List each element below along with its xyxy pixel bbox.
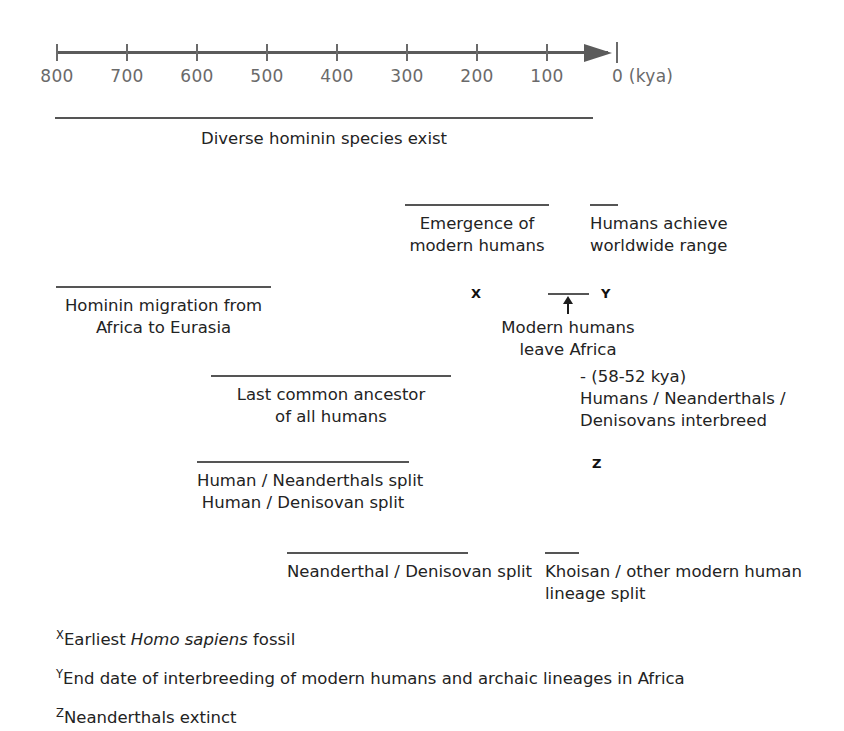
event-neanderthal-denisovan-split: Neanderthal / Denisovan split <box>287 552 468 583</box>
event-hominin-migration: Hominin migration from Africa to Eurasia <box>56 286 271 339</box>
event-label-splits-line2: Human / Denisovan split <box>197 492 409 514</box>
footnote-x-post: fossil <box>248 630 296 649</box>
event-label-khoisan-line2: lineage split <box>545 583 579 605</box>
event-label-migration-line2: Africa to Eurasia <box>56 317 271 339</box>
axis-label-500: 500 <box>250 66 283 86</box>
axis-tick-0 <box>616 42 618 63</box>
axis-tick-600 <box>196 44 198 61</box>
axis-label-0-kya: 0 (kya) <box>612 66 673 86</box>
axis-tick-400 <box>336 44 338 61</box>
event-label-neanderthal-denisovan: Neanderthal / Denisovan split <box>287 554 468 583</box>
axis-label-200: 200 <box>460 66 493 86</box>
footnote-x: XEarliest Homo sapiens fossil <box>56 629 295 651</box>
marker-y: Y <box>601 286 611 301</box>
axis-tick-200 <box>476 44 478 61</box>
timeline-axis: 800 700 600 500 400 300 200 100 0 (kya) <box>0 0 844 100</box>
footnote-z-text: Neanderthals extinct <box>64 708 237 727</box>
footnote-x-pre: Earliest <box>64 630 131 649</box>
axis-label-400: 400 <box>320 66 353 86</box>
axis-tick-800 <box>56 44 58 61</box>
annotation-interbreed-line2: Humans / Neanderthals / <box>580 388 786 410</box>
axis-tick-500 <box>266 44 268 61</box>
marker-z: Z <box>592 456 602 471</box>
event-label-migration-line1: Hominin migration from <box>56 288 271 317</box>
axis-tick-700 <box>126 44 128 61</box>
event-diverse-hominins: Diverse hominin species exist <box>55 117 593 150</box>
annotation-interbreed-line3: Denisovans interbreed <box>580 410 767 432</box>
footnote-y-marker: Y <box>56 667 63 681</box>
up-arrow-icon <box>563 296 573 304</box>
axis-label-700: 700 <box>110 66 143 86</box>
event-khoisan-split: Khoisan / other modern human lineage spl… <box>545 552 579 605</box>
event-label-khoisan-line1: Khoisan / other modern human <box>545 554 579 583</box>
event-last-common-ancestor: Last common ancestor of all humans <box>211 375 451 428</box>
event-emergence-modern-humans: Emergence of modern humans <box>405 204 549 257</box>
annotation-leave-africa-line2: leave Africa <box>519 339 616 361</box>
event-label-worldwide-line1: Humans achieve <box>590 206 618 235</box>
footnote-z-marker: Z <box>56 706 64 720</box>
footnote-z: ZNeanderthals extinct <box>56 707 237 729</box>
axis-tick-300 <box>406 44 408 61</box>
axis-tick-100 <box>546 44 548 61</box>
axis-line <box>56 51 608 54</box>
event-label-emergence-line1: Emergence of <box>405 206 549 235</box>
event-label-emergence-line2: modern humans <box>405 235 549 257</box>
axis-arrow-icon <box>584 44 612 62</box>
footnote-x-italic: Homo sapiens <box>131 630 248 649</box>
event-label-worldwide-line2: worldwide range <box>590 235 618 257</box>
axis-label-100: 100 <box>530 66 563 86</box>
timeline-diagram: 800 700 600 500 400 300 200 100 0 (kya) … <box>0 0 844 731</box>
axis-label-800: 800 <box>40 66 73 86</box>
event-humans-worldwide-range: Humans achieve worldwide range <box>590 204 618 257</box>
annotation-interbreed-line1: - (58-52 kya) <box>580 366 686 388</box>
event-label-lca-line1: Last common ancestor <box>211 377 451 406</box>
event-rule-leave-africa <box>548 293 589 295</box>
axis-label-600: 600 <box>180 66 213 86</box>
event-label-splits-line1: Human / Neanderthals split <box>197 463 409 492</box>
event-human-neanderthal-denisovan-split: Human / Neanderthals split Human / Denis… <box>197 461 409 514</box>
footnote-x-marker: X <box>56 628 64 642</box>
annotation-leave-africa-line1: Modern humans <box>501 317 634 339</box>
footnote-y: YEnd date of interbreeding of modern hum… <box>56 668 685 690</box>
footnote-y-text: End date of interbreeding of modern huma… <box>63 669 685 688</box>
marker-x: X <box>471 286 482 301</box>
axis-label-300: 300 <box>390 66 423 86</box>
event-label-lca-line2: of all humans <box>211 406 451 428</box>
event-label-diverse-hominins: Diverse hominin species exist <box>55 119 593 150</box>
